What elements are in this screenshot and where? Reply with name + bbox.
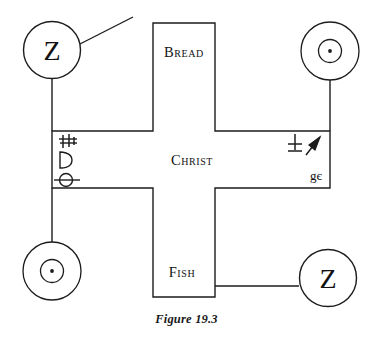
- right-arm-mark-3-label: gє: [310, 168, 323, 183]
- sun-center-dot: [328, 49, 332, 53]
- figure-caption: Figure 19.3: [0, 312, 373, 327]
- diagonal-pointer-line: [78, 17, 133, 45]
- right-arm-mark-2: ➤: [306, 136, 320, 155]
- letter-z-glyph: Z: [319, 263, 336, 294]
- left-arm-mark-2: D: [60, 152, 72, 169]
- node-top-left[interactable]: Z: [24, 22, 81, 79]
- node-top-right[interactable]: [301, 22, 359, 80]
- cross-center-label: Christ: [171, 152, 213, 168]
- right-arm-mark-3: gє: [310, 168, 323, 183]
- left-arm-mark-3: Θ: [54, 172, 80, 187]
- cross-bottom-label: Fish: [169, 264, 196, 280]
- cross-top-label: Bread: [164, 44, 204, 60]
- right-arm-mark-1: ✚: [288, 134, 302, 152]
- left-arm-mark-1: ☨: [59, 129, 77, 148]
- sun-center-dot: [50, 269, 54, 273]
- node-bottom-right[interactable]: Z: [300, 250, 357, 307]
- letter-z-glyph: Z: [43, 35, 60, 66]
- figure-container: Z Z Bread Christ Fish: [0, 0, 373, 337]
- cross-diagram: Z Z Bread Christ Fish: [0, 0, 373, 337]
- node-bottom-left[interactable]: [23, 242, 81, 300]
